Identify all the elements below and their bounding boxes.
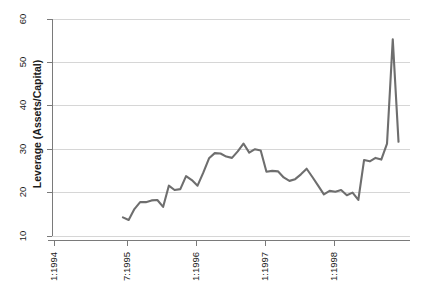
series-leverage (0, 0, 425, 296)
chart-container: Leverage (Assets/Capital) 60 50 40 30 20… (0, 0, 425, 296)
